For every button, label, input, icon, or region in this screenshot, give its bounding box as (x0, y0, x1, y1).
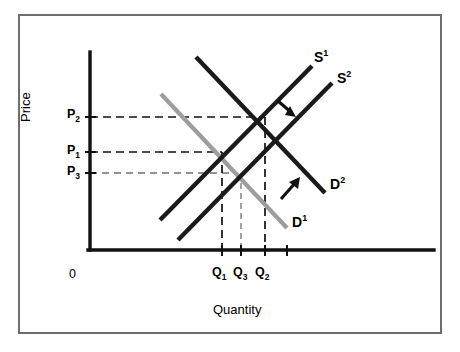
x-axis-title: Quantity (213, 303, 261, 316)
curve-d1 (161, 94, 287, 228)
curve-label-d2: D2 (330, 177, 345, 191)
quantity-tick-label-q1: Q1 (212, 266, 226, 279)
quantity-tick-label-q2: Q2 (255, 266, 269, 279)
price-tick-label-p1: P1 (67, 144, 80, 157)
price-tick-label-p2: P2 (67, 108, 80, 121)
quantity-tick-base-q1: Q (212, 265, 222, 279)
curve-base-s1: S (314, 49, 323, 65)
supply-shift-arrow (278, 101, 296, 117)
quantity-tick-sub-q3: 3 (243, 272, 248, 282)
origin-label: 0 (69, 268, 76, 281)
curve-label-s2: S2 (337, 71, 351, 85)
guide-lines (90, 117, 265, 250)
quantity-tick-label-q3: Q3 (233, 266, 247, 279)
tick-marks (85, 117, 287, 256)
price-tick-sub-p1: 1 (75, 150, 80, 160)
curve-label-s1: S1 (314, 50, 328, 64)
demand-shift-arrow (281, 177, 300, 199)
price-tick-label-p3: P3 (67, 165, 80, 178)
curve-base-d1: D (292, 214, 302, 230)
quantity-tick-base-q3: Q (233, 265, 243, 279)
price-tick-sub-p2: 2 (75, 114, 80, 124)
curve-base-d2: D (330, 176, 340, 192)
figure-page: Price Quantity 0 P2 P1 P3 Q1 Q3 Q2 S1 S2… (0, 0, 460, 352)
curve-s1 (160, 66, 312, 220)
curve-s2 (178, 83, 332, 240)
curve-base-s2: S (337, 70, 346, 86)
price-tick-sub-p3: 3 (75, 171, 80, 181)
quantity-tick-sub-q1: 1 (222, 272, 227, 282)
curve-sup-s1: 1 (323, 48, 328, 58)
curve-label-d1: D1 (292, 215, 307, 229)
y-axis-title: Price (19, 92, 32, 122)
axes (88, 52, 434, 250)
curve-sup-d2: 2 (340, 175, 345, 185)
quantity-tick-base-q2: Q (255, 265, 265, 279)
quantity-tick-sub-q2: 2 (265, 272, 270, 282)
curve-sup-d1: 1 (302, 213, 307, 223)
curve-sup-s2: 2 (346, 69, 351, 79)
